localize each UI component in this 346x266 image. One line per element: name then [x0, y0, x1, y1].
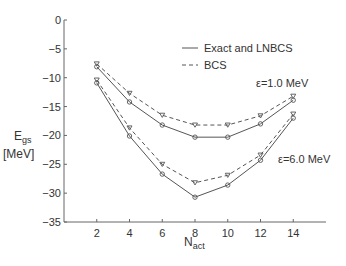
y-tick-label: −15	[42, 101, 61, 113]
legend-dashed-label: BCS	[204, 59, 227, 71]
x-tick-label: 4	[126, 227, 132, 239]
y-tick-label: −20	[42, 129, 61, 141]
x-tick-label: 12	[254, 227, 266, 239]
y-tick-label: −30	[42, 187, 61, 199]
y-tick-label: −35	[42, 216, 61, 228]
data-point-triangle	[160, 113, 165, 117]
x-tick-label: 8	[192, 227, 198, 239]
data-point-triangle	[193, 181, 198, 185]
x-tick-label: 2	[94, 227, 100, 239]
data-point-triangle	[258, 153, 263, 157]
y-tick-label: 0	[55, 14, 61, 26]
x-tick-label: 10	[222, 227, 234, 239]
x-tick-label: 14	[287, 227, 299, 239]
annotation-eps-6: ε=6.0 MeV	[278, 153, 331, 165]
y-tick-label: −5	[48, 43, 61, 55]
series-line-1	[97, 64, 294, 125]
series-line-2	[97, 83, 294, 197]
y-tick-label: −10	[42, 72, 61, 84]
x-tick-label: 6	[159, 227, 165, 239]
annotation-eps-1: ε=1.0 MeV	[256, 77, 309, 89]
data-point-triangle	[193, 123, 198, 127]
chart: 0−5−10−15−20−25−30−352468101214 Egs [MeV…	[0, 0, 346, 266]
y-axis-unit: [MeV]	[3, 147, 34, 161]
y-tick-label: −25	[42, 158, 61, 170]
legend: Exact and LNBCS BCS	[182, 42, 293, 71]
legend-solid-label: Exact and LNBCS	[204, 42, 293, 54]
y-axis-label: Egs	[14, 129, 32, 145]
